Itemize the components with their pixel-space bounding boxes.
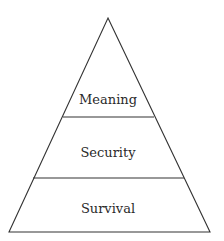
level-survival-label: Survival bbox=[0, 201, 216, 217]
pyramid-outline bbox=[9, 18, 210, 232]
level-meaning-label: Meaning bbox=[0, 92, 216, 108]
level-security-label: Security bbox=[0, 145, 216, 161]
